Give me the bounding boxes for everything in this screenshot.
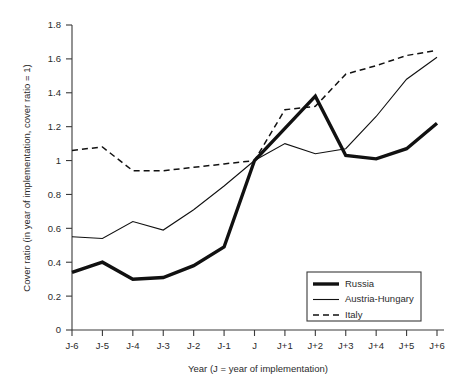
y-tick-label: 1.8 — [48, 19, 61, 30]
legend-label-russia: Russia — [345, 278, 375, 289]
y-tick-label: 0.4 — [48, 257, 61, 268]
x-tick-label: J-3 — [157, 340, 170, 351]
x-tick-label: J-6 — [65, 340, 78, 351]
y-axis-title: Cover ratio (in year of implementation, … — [21, 64, 32, 291]
x-tick-label: J+1 — [277, 340, 293, 351]
x-tick-label: J+2 — [308, 340, 324, 351]
y-tick-label: 0.8 — [48, 189, 61, 200]
line-chart-figure: 00.20.40.60.811.21.41.61.8 J-6J-5J-4J-3J… — [0, 0, 457, 387]
x-tick-label: J-5 — [96, 340, 109, 351]
x-tick-label: J — [252, 340, 257, 351]
chart-background — [0, 0, 457, 387]
x-tick-label: J+4 — [368, 340, 384, 351]
x-axis-title: Year (J = year of implementation) — [188, 363, 328, 374]
x-tick-label: J+6 — [429, 340, 445, 351]
x-tick-label: J+5 — [399, 340, 415, 351]
y-tick-label: 0.6 — [48, 223, 61, 234]
y-tick-label: 1.6 — [48, 53, 61, 64]
x-tick-label: J-4 — [126, 340, 139, 351]
y-tick-label: 0.2 — [48, 291, 61, 302]
legend-label-austria-hungary: Austria-Hungary — [345, 293, 414, 304]
x-tick-label: J+3 — [338, 340, 354, 351]
y-tick-label: 1.2 — [48, 121, 61, 132]
y-tick-label: 1 — [56, 155, 61, 166]
chart-legend: RussiaAustria-HungaryItaly — [307, 272, 421, 321]
x-tick-label: J-2 — [187, 340, 200, 351]
y-tick-label: 0 — [56, 324, 61, 335]
y-tick-label: 1.4 — [48, 87, 61, 98]
legend-label-italy: Italy — [345, 309, 363, 320]
x-tick-label: J-1 — [217, 340, 230, 351]
